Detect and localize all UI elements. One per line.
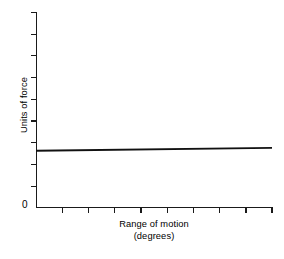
- x-axis-label-units: (degrees): [36, 231, 272, 243]
- x-axis-ticks: [62, 208, 272, 214]
- y-axis-label: Units of force: [19, 45, 29, 165]
- chart-figure: 0 Units of force Range of motion (degree…: [0, 0, 284, 259]
- series-line-force: [36, 148, 272, 151]
- y-axis-ticks: [31, 13, 37, 187]
- x-axis-label: Range of motion (degrees): [36, 219, 272, 242]
- origin-axis-label: 0: [22, 199, 28, 210]
- x-axis-label-main: Range of motion: [36, 219, 272, 231]
